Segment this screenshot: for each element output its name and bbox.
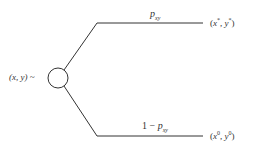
lower-branch	[64, 86, 203, 136]
chance-node	[48, 68, 68, 88]
upper-probability-label: pxy	[150, 8, 160, 21]
upper-outcome-label: (x*, y*)	[210, 17, 235, 28]
lower-probability-label: 1 − pxy	[142, 120, 168, 133]
root-label: (x, y) ~	[9, 72, 35, 82]
lower-outcome-label: (x0, y0)	[210, 130, 235, 141]
upper-branch	[64, 23, 203, 70]
